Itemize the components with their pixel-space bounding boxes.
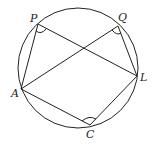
label-C: C (86, 128, 95, 141)
diagram-canvas: P Q L A C (0, 0, 157, 148)
label-A: A (10, 87, 19, 100)
geometry-diagram: P Q L A C (0, 0, 157, 148)
segment-CL (90, 76, 137, 125)
segments (21, 24, 137, 125)
label-P: P (29, 12, 38, 25)
angle-mark-P (36, 29, 46, 33)
circumcircle (18, 8, 138, 128)
label-L: L (139, 71, 147, 84)
segment-QA (21, 26, 118, 89)
angle-marks (36, 29, 121, 121)
label-Q: Q (118, 11, 127, 24)
segment-AC (21, 89, 90, 125)
